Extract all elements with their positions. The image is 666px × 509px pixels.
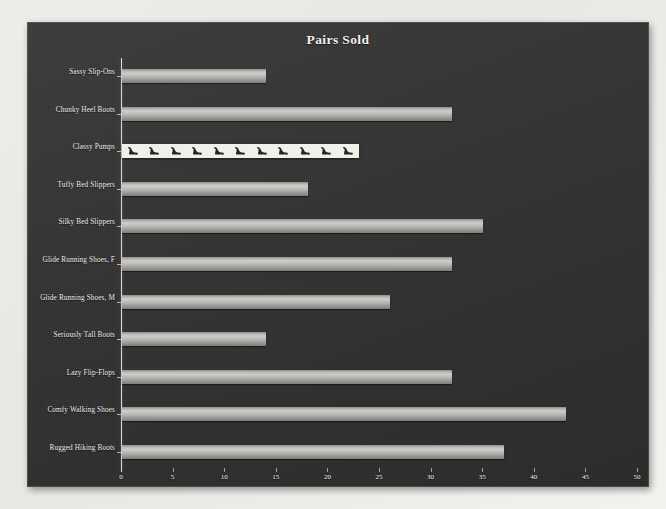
chart-bar-row: Rugged Hiking Boots	[121, 434, 639, 472]
chart-bar-row: Glide Running Shoes, M	[121, 284, 639, 322]
value-axis-tick-label: 5	[171, 473, 175, 481]
category-axis-label: Tuffy Bed Slippers	[58, 181, 115, 189]
high-heel-shoe-icon	[144, 144, 166, 158]
category-tick	[117, 76, 121, 77]
high-heel-shoe-icon	[337, 144, 359, 158]
category-axis-label: Seriously Tall Boots	[54, 331, 115, 339]
category-axis-label: Rugged Hiking Boots	[49, 444, 115, 452]
chart-bar-row: Tuffy Bed Slippers	[121, 171, 639, 209]
chart-bar	[122, 332, 266, 346]
chart-bar-row: Lazy Flip-Flops	[121, 359, 639, 397]
category-tick	[117, 414, 121, 415]
value-axis-tick-label: 50	[634, 473, 641, 481]
value-axis-tick	[379, 468, 380, 472]
value-axis-tick-label: 30	[427, 473, 434, 481]
chart-bar	[122, 182, 308, 196]
category-tick	[117, 264, 121, 265]
value-axis-tick-label: 10	[221, 473, 228, 481]
high-heel-shoe-icon	[251, 144, 273, 158]
value-axis-tick-label: 25	[376, 473, 383, 481]
category-tick	[117, 302, 121, 303]
value-axis: 05101520253035404550	[121, 472, 639, 487]
chart-bar-row: Silky Bed Slippers	[121, 208, 639, 246]
chart-title: Pairs Sold	[27, 32, 649, 48]
category-tick	[117, 114, 121, 115]
category-axis-label: Sassy Slip-Ons	[69, 68, 115, 76]
category-axis-label: Lazy Flip-Flops	[67, 369, 115, 377]
plot-area: Sassy Slip-OnsChunky Heel BootsClassy Pu…	[121, 58, 639, 472]
value-axis-tick-label: 40	[530, 473, 537, 481]
chart-bar	[122, 219, 483, 233]
category-tick	[117, 377, 121, 378]
category-axis-label: Classy Pumps	[73, 143, 115, 151]
chart-bar	[122, 407, 566, 421]
chart-bar	[122, 295, 390, 309]
chart-bar	[122, 257, 452, 271]
high-heel-shoe-icon	[230, 144, 252, 158]
value-axis-tick-label: 0	[119, 473, 123, 481]
chart-bar	[122, 69, 266, 83]
value-axis-tick	[585, 468, 586, 472]
category-tick	[117, 151, 121, 152]
value-axis-tick-label: 35	[479, 473, 486, 481]
chart-bar-row: Classy Pumps	[121, 133, 639, 171]
value-axis-tick	[327, 468, 328, 472]
category-tick	[117, 339, 121, 340]
chart-bar-row: Chunky Heel Boots	[121, 96, 639, 134]
value-axis-tick	[121, 468, 122, 472]
chart-bar-row: Sassy Slip-Ons	[121, 58, 639, 96]
chart-image: Pairs Sold Sassy Slip-OnsChunky Heel Boo…	[27, 22, 649, 487]
chart-bar-row: Glide Running Shoes, F	[121, 246, 639, 284]
value-axis-tick	[637, 468, 638, 472]
category-tick	[117, 189, 121, 190]
category-tick	[117, 226, 121, 227]
chart-bar	[122, 107, 452, 121]
chart-bar	[122, 144, 359, 158]
value-axis-tick	[276, 468, 277, 472]
value-axis-tick-label: 20	[324, 473, 331, 481]
category-tick	[117, 452, 121, 453]
value-axis-tick	[173, 468, 174, 472]
chart-bar-row: Comfy Walking Shoes	[121, 396, 639, 434]
high-heel-shoe-icon	[187, 144, 209, 158]
chart-bar	[122, 370, 452, 384]
value-axis-tick-label: 45	[582, 473, 589, 481]
chart-bar	[122, 445, 504, 459]
high-heel-shoe-icon	[294, 144, 316, 158]
category-axis-label: Chunky Heel Boots	[56, 106, 115, 114]
value-axis-tick	[482, 468, 483, 472]
high-heel-shoe-icon	[165, 144, 187, 158]
category-axis-label: Glide Running Shoes, F	[43, 256, 115, 264]
value-axis-tick	[534, 468, 535, 472]
category-axis-label: Comfy Walking Shoes	[47, 406, 115, 414]
high-heel-shoe-icon	[208, 144, 230, 158]
high-heel-shoe-icon	[122, 144, 144, 158]
value-axis-tick	[224, 468, 225, 472]
high-heel-shoe-icon	[273, 144, 295, 158]
high-heel-shoe-icon	[316, 144, 338, 158]
chart-bar-row: Seriously Tall Boots	[121, 321, 639, 359]
value-axis-tick-label: 15	[272, 473, 279, 481]
category-axis-label: Glide Running Shoes, M	[40, 294, 115, 302]
value-axis-tick	[431, 468, 432, 472]
category-axis-label: Silky Bed Slippers	[58, 218, 115, 226]
